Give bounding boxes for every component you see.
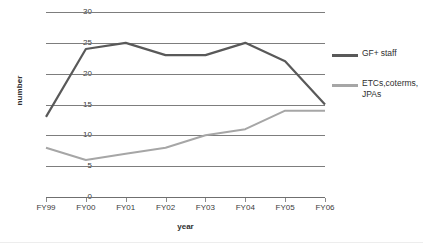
legend-label-cont: JPAs [362, 89, 423, 100]
x-axis-tick-labels: FY99FY00FY01FY02FY03FY04FY05FY06 [46, 203, 325, 217]
legend-label: ETCs,coterms, [362, 78, 423, 89]
bottom-divider [0, 242, 423, 243]
x-axis-tick-label: FY06 [305, 203, 345, 213]
series-lines [46, 12, 325, 197]
x-axis-tick [86, 198, 87, 202]
x-axis-tick [245, 198, 246, 202]
x-axis-tick [285, 198, 286, 202]
legend-item-etcs-coterms-jpas: ETCs,coterms, JPAs [332, 78, 423, 100]
series-line [46, 111, 325, 160]
x-axis-tick-label: FY04 [225, 203, 265, 213]
line-chart: number 051015202530 FY99FY00FY01FY02FY03… [0, 0, 423, 246]
x-axis-tick-label: FY05 [265, 203, 305, 213]
series-line [46, 43, 325, 117]
legend-item-gf-staff: GF+ staff [332, 48, 423, 62]
x-axis-title: year [46, 222, 325, 231]
x-axis-tick-label: FY99 [26, 203, 66, 213]
legend-swatch-icon [332, 54, 358, 57]
x-axis-tick [325, 198, 326, 202]
legend-swatch-icon [332, 84, 358, 87]
x-axis-tick-label: FY03 [185, 203, 225, 213]
x-axis-tick-label: FY01 [106, 203, 146, 213]
x-axis-tick [166, 198, 167, 202]
chart-legend: GF+ staff ETCs,coterms, JPAs [332, 48, 423, 116]
x-axis-tick-label: FY02 [146, 203, 186, 213]
x-axis-tick [205, 198, 206, 202]
plot-area [46, 12, 325, 197]
x-axis-tick [126, 198, 127, 202]
x-axis-tick-label: FY00 [66, 203, 106, 213]
legend-label: GF+ staff [362, 48, 423, 59]
x-axis-tick [46, 198, 47, 202]
y-axis-title: number [15, 71, 24, 111]
